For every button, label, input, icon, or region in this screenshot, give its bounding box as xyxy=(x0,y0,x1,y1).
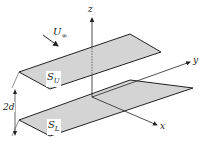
lower-plate-subscript: L xyxy=(55,125,60,133)
upper-plate-label: SU xyxy=(46,71,61,87)
plates-diagram xyxy=(0,0,208,145)
lower-plate-symbol: S xyxy=(48,119,55,130)
freestream-label: U∞ xyxy=(53,26,67,40)
lower-plate-label: SL xyxy=(47,119,61,135)
y-axis-label: y xyxy=(193,55,198,65)
freestream-subscript: ∞ xyxy=(61,32,67,40)
z-axis-label: z xyxy=(88,4,93,14)
diagram-canvas: z y x U∞ SU SL 2d xyxy=(0,0,208,145)
separation-label: 2d xyxy=(3,102,15,112)
upper-plate-symbol: S xyxy=(47,71,54,82)
upper-plate-subscript: U xyxy=(54,77,60,85)
lower-plate xyxy=(19,80,193,136)
x-axis-label: x xyxy=(160,121,165,131)
